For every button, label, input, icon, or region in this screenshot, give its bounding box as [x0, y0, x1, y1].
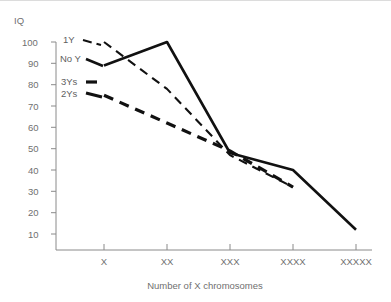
x-tick-label: XXXX — [280, 256, 306, 267]
y-tick-label: 10 — [28, 229, 39, 240]
series-line-2ys — [104, 95, 293, 187]
series-label-1y: 1Y — [63, 34, 75, 45]
chart-figure: IQ 100 90 80 70 60 50 40 30 20 — [0, 0, 391, 302]
y-tick-label: 100 — [22, 37, 38, 48]
y-tick-label: 30 — [28, 186, 39, 197]
y-tick-label: 70 — [28, 101, 39, 112]
y-axis-ticks: 100 90 80 70 60 50 40 30 20 10 — [22, 37, 56, 240]
x-tick-label: XX — [161, 256, 174, 267]
y-tick-label: 60 — [28, 122, 39, 133]
series-line-1y — [104, 42, 293, 187]
leader-no-y — [86, 59, 103, 66]
series-label-3ys: 3Ys — [61, 76, 78, 87]
x-axis-title: Number of X chromosomes — [147, 280, 263, 291]
y-tick-label: 90 — [28, 58, 39, 69]
y-tick-label: 20 — [28, 207, 39, 218]
leader-1y — [83, 40, 101, 45]
y-tick-label: 50 — [28, 143, 39, 154]
y-axis-title: IQ — [14, 15, 24, 26]
x-axis-ticks: X XX XXX XXXX XXXXX — [101, 244, 373, 267]
iq-vs-x-chromosomes-line-chart: IQ 100 90 80 70 60 50 40 30 20 — [0, 0, 391, 302]
y-tick-label: 80 — [28, 79, 39, 90]
series-label-no-y: No Y — [60, 53, 82, 64]
series-label-2ys: 2Ys — [61, 88, 78, 99]
leader-2ys — [86, 93, 102, 97]
x-tick-label: XXX — [220, 256, 240, 267]
y-tick-label: 40 — [28, 165, 39, 176]
x-tick-label: X — [101, 256, 108, 267]
x-tick-label: XXXXX — [340, 256, 372, 267]
